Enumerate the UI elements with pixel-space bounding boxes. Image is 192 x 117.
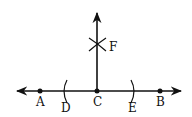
point-b-dot bbox=[158, 89, 163, 94]
label-d: D bbox=[61, 101, 71, 115]
label-b: B bbox=[156, 95, 165, 109]
label-e: E bbox=[128, 101, 137, 115]
label-c: C bbox=[93, 95, 102, 109]
perpendicular-construction-diagram: A D C E B F bbox=[0, 0, 192, 117]
label-a: A bbox=[35, 95, 45, 109]
label-f: F bbox=[109, 40, 117, 54]
point-a-dot bbox=[38, 89, 43, 94]
point-c-dot bbox=[95, 89, 100, 94]
